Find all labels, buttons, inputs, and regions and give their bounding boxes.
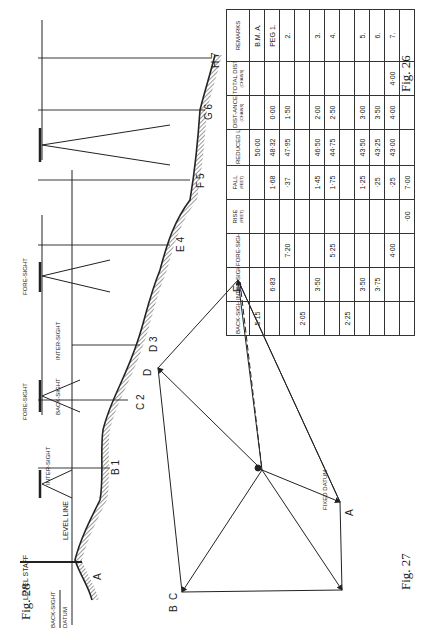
table-cell bbox=[295, 166, 310, 200]
table-cell bbox=[340, 130, 355, 166]
table-cell bbox=[280, 302, 295, 336]
table-cell: 1·68 bbox=[265, 166, 280, 200]
table-cell bbox=[400, 268, 415, 302]
table-cell: 6. bbox=[370, 10, 385, 62]
table-cell: 44·75 bbox=[325, 130, 340, 166]
station-label-h: H 7 bbox=[210, 52, 221, 68]
label-level-line: LEVEL LINE bbox=[62, 501, 69, 540]
table-cell: 6·83 bbox=[265, 268, 280, 302]
table-cell bbox=[400, 302, 415, 336]
table-cell bbox=[340, 96, 355, 130]
table-cell: B.M. A. bbox=[250, 10, 265, 62]
caption-fig28: Fig. 28 bbox=[18, 583, 34, 620]
point-label-c: C bbox=[168, 593, 179, 600]
table-cell: 4·00 bbox=[385, 96, 400, 130]
table-cell bbox=[385, 268, 400, 302]
table-cell: 7. bbox=[385, 10, 400, 62]
table-cell bbox=[295, 96, 310, 130]
station-label-g: G 6 bbox=[203, 104, 214, 120]
table-cell: 1·50 bbox=[280, 96, 295, 130]
header-back-sight: BACK-SIGHT bbox=[227, 302, 250, 336]
table-row: ·007·00 bbox=[400, 10, 415, 336]
table-cell bbox=[280, 268, 295, 302]
header-rise: RISE(FEET) bbox=[227, 200, 250, 234]
label-inter-sight-2: INTER-SIGHT bbox=[55, 322, 61, 360]
table-cell bbox=[325, 200, 340, 234]
table-cell bbox=[370, 62, 385, 96]
table-cell: ·00 bbox=[400, 200, 415, 234]
table-cell bbox=[265, 62, 280, 96]
table-cell: 1·25 bbox=[355, 166, 370, 200]
table-cell bbox=[250, 268, 265, 302]
label-back-sight: BACK-SIGHT bbox=[50, 591, 56, 628]
table-cell: 2·50 bbox=[325, 96, 340, 130]
table-row: 2·25 bbox=[340, 10, 355, 336]
table-cell bbox=[355, 302, 370, 336]
table-body: 5·1550·00B.M. A.6·831·6848·320·00PEG 1.7… bbox=[250, 10, 415, 336]
table-cell bbox=[325, 302, 340, 336]
table-row: 4·00·2543·004·004·007. bbox=[385, 10, 400, 336]
table-cell: 3·50 bbox=[310, 268, 325, 302]
table-cell bbox=[385, 200, 400, 234]
header-fore-sight: FORE-SIGHT bbox=[227, 234, 250, 268]
table-cell bbox=[385, 302, 400, 336]
table-cell bbox=[340, 200, 355, 234]
table-cell: 2·00 bbox=[310, 96, 325, 130]
table-cell: 46·50 bbox=[310, 130, 325, 166]
table-cell: 2·05 bbox=[295, 302, 310, 336]
table-cell bbox=[340, 234, 355, 268]
table-cell bbox=[340, 10, 355, 62]
table-cell bbox=[310, 200, 325, 234]
header-remarks: REMARKS bbox=[227, 10, 250, 62]
table-row: 6·831·6848·320·00PEG 1. bbox=[265, 10, 280, 336]
table-cell bbox=[340, 166, 355, 200]
table-cell bbox=[250, 200, 265, 234]
table-cell: 3·50 bbox=[370, 96, 385, 130]
table-cell: ·37 bbox=[280, 166, 295, 200]
header-reduced-levels: REDUCED LEVELS bbox=[227, 130, 250, 166]
table-cell bbox=[370, 200, 385, 234]
table-row: 7·20·3747·951·502. bbox=[280, 10, 295, 336]
table-cell bbox=[340, 62, 355, 96]
header-fall: FALL(FEET) bbox=[227, 166, 250, 200]
table-row: 5·1550·00B.M. A. bbox=[250, 10, 265, 336]
table-cell bbox=[340, 268, 355, 302]
table-cell bbox=[400, 234, 415, 268]
table-cell bbox=[370, 234, 385, 268]
header-inter-sight: INTER-SIGHT bbox=[227, 268, 250, 302]
table-cell bbox=[295, 234, 310, 268]
table-cell: 2·25 bbox=[340, 302, 355, 336]
label-fore-sight-2: FORE-SIGHT bbox=[22, 258, 28, 295]
table-cell bbox=[400, 62, 415, 96]
table-cell: 47·95 bbox=[280, 130, 295, 166]
table-cell bbox=[310, 62, 325, 96]
table-cell bbox=[250, 62, 265, 96]
table-cell: PEG 1. bbox=[265, 10, 280, 62]
table-cell bbox=[265, 302, 280, 336]
table-cell bbox=[355, 62, 370, 96]
table-row: 3·501·4546·502·003. bbox=[310, 10, 325, 336]
table-cell bbox=[250, 234, 265, 268]
table-cell: 2. bbox=[280, 10, 295, 62]
table-cell: ·25 bbox=[385, 166, 400, 200]
table-row: 5·251·7544·752·504. bbox=[325, 10, 340, 336]
table-cell: 1·45 bbox=[310, 166, 325, 200]
table-cell bbox=[400, 10, 415, 62]
table-cell: 3·50 bbox=[355, 268, 370, 302]
table-cell: 3·75 bbox=[370, 268, 385, 302]
table-cell: 4·00 bbox=[385, 62, 400, 96]
station-label-b: B 1 bbox=[110, 460, 121, 475]
table-row: 3·501·2543·503·005. bbox=[355, 10, 370, 336]
table-row: 2·05 bbox=[295, 10, 310, 336]
table-cell: 43·50 bbox=[355, 130, 370, 166]
table-cell bbox=[295, 200, 310, 234]
table-cell bbox=[310, 302, 325, 336]
table-cell: 5·25 bbox=[325, 234, 340, 268]
table-cell: 1·75 bbox=[325, 166, 340, 200]
table-cell bbox=[355, 200, 370, 234]
header-distance: DIST-ANCE(CHAINS) bbox=[227, 96, 250, 130]
label-fore-sight-1: FORE-SIGHT bbox=[22, 383, 28, 420]
fig27-level-book: BACK-SIGHT INTER-SIGHT FORE-SIGHT RISE(F… bbox=[226, 10, 396, 336]
table-cell bbox=[400, 130, 415, 166]
label-back-sight-2: BACK-SIGHT bbox=[55, 378, 61, 415]
